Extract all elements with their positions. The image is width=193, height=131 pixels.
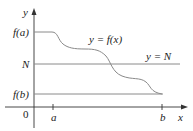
y-tick-label-fb: f(b) [13,88,29,101]
origin-label: 0 [23,108,29,120]
x-axis-arrow-icon [181,105,188,110]
x-axis-label: x [177,111,183,123]
ivt-diagram: y x 0 f(a) N f(b) a b y = f(x) y = N [0,0,193,131]
curve-label: y = f(x) [88,33,122,46]
x-tick-label-b: b [160,111,166,123]
y-tick-label-N: N [21,58,30,70]
y-axis-label: y [22,6,28,18]
x-tick-label-a: a [51,111,57,123]
y-tick-label-fa: f(a) [13,26,29,39]
line-N-label: y = N [145,50,172,62]
y-axis-arrow-icon [32,8,37,15]
